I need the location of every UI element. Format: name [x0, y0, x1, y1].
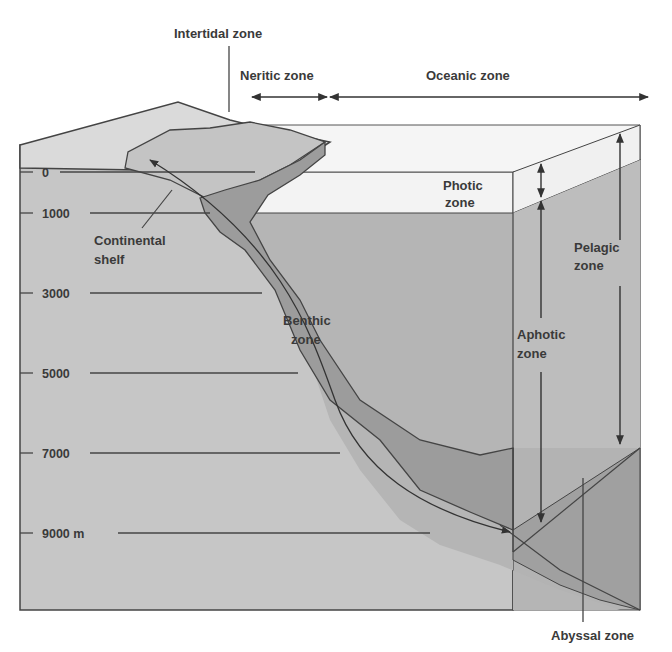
pelagic-zone-label-1: Pelagic: [574, 240, 620, 255]
aphotic-zone-label-1: Aphotic: [517, 327, 565, 342]
depth-label-0: 0: [42, 166, 49, 180]
depth-label-7000: 7000: [42, 447, 70, 461]
intertidal-zone-label: Intertidal zone: [174, 26, 262, 41]
photic-zone-label-1: Photic: [443, 178, 483, 193]
photic-zone-label-2: zone: [445, 195, 475, 210]
aphotic-zone-label-2: zone: [517, 346, 547, 361]
neritic-zone-label: Neritic zone: [240, 68, 314, 83]
oceanic-zone-label: Oceanic zone: [426, 68, 510, 83]
ocean-zones-diagram: 0 1000 3000 5000 7000 9000 m Intertidal …: [0, 0, 672, 652]
depth-label-9000: 9000 m: [42, 527, 84, 541]
continental-shelf-label-2: shelf: [94, 252, 125, 267]
depth-label-3000: 3000: [42, 287, 70, 301]
abyssal-zone-label: Abyssal zone: [551, 628, 634, 643]
pelagic-zone-label-2: zone: [574, 258, 604, 273]
depth-label-5000: 5000: [42, 367, 70, 381]
depth-label-1000: 1000: [42, 207, 70, 221]
continental-shelf-label-1: Continental: [94, 233, 166, 248]
benthic-zone-label-2: zone: [291, 332, 321, 347]
benthic-zone-label-1: Benthic: [283, 313, 331, 328]
